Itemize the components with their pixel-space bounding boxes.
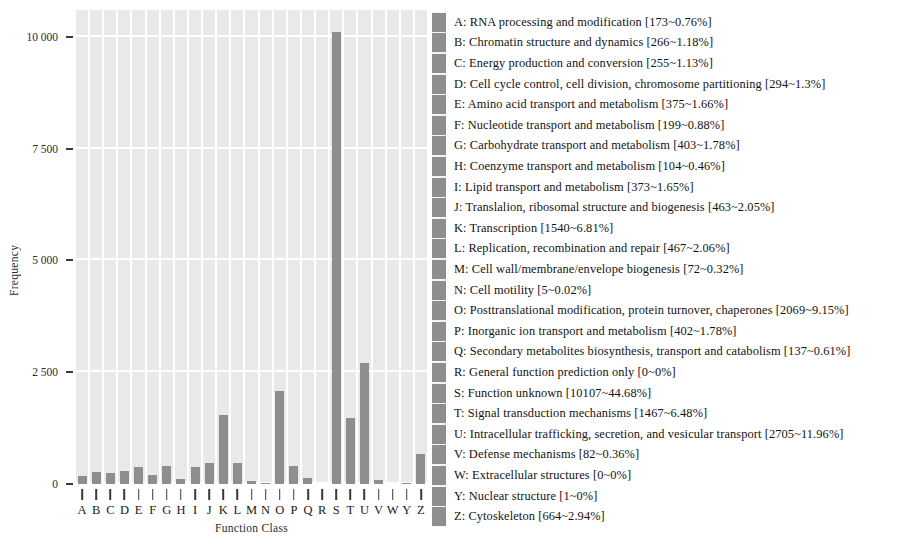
x-axis-tick-label: Q [303, 503, 312, 518]
x-axis-tick-mark [237, 489, 239, 500]
bar [205, 463, 214, 484]
gridline-horizontal [75, 147, 428, 149]
cog-function-classification-figure: Frequency 02 5005 0007 50010 000 ABCDEFG… [0, 0, 912, 544]
bar [176, 479, 185, 484]
x-axis-tick-mark [138, 489, 140, 500]
x-axis-tick-mark [251, 489, 253, 500]
gridline-vertical [399, 10, 401, 484]
legend-item-label: E: Amino acid transport and metabolism [… [454, 97, 728, 112]
gridline-vertical [286, 10, 288, 484]
bar [374, 480, 383, 484]
y-axis-tick-label: 10 000 [0, 31, 58, 43]
legend-item-label: V: Defense mechanisms [82~0.36%] [454, 447, 639, 462]
x-axis-tick-mark [378, 489, 380, 500]
bar [92, 472, 101, 484]
gridline-vertical [314, 10, 316, 484]
x-axis-tick-label: M [246, 503, 257, 518]
x-axis-tick-mark [222, 489, 224, 500]
y-axis-tick-mark [66, 259, 73, 261]
legend-color-swatch [432, 341, 446, 362]
legend-item: G: Carbohydrate transport and metabolism… [432, 136, 740, 157]
bar [247, 481, 256, 484]
gridline-vertical [130, 10, 132, 484]
x-axis-tick-label: J [207, 503, 212, 518]
x-axis-tick-mark [420, 489, 422, 500]
legend-item: S: Function unknown [10107~44.68%] [432, 383, 651, 404]
x-axis-tick-label: A [78, 503, 87, 518]
bar [275, 391, 284, 484]
x-axis-tick-label: T [347, 503, 355, 518]
legend-color-swatch [432, 53, 446, 74]
legend-color-swatch [432, 383, 446, 404]
gridline-vertical [413, 10, 415, 484]
legend-color-swatch [432, 300, 446, 321]
legend-item-label: C: Energy production and conversion [255… [454, 56, 713, 71]
bar [106, 473, 115, 484]
gridline-vertical [159, 10, 161, 484]
legend-item-label: A: RNA processing and modification [173~… [454, 15, 712, 30]
x-axis-tick-mark [265, 489, 267, 500]
legend-item-label: P: Inorganic ion transport and metabolis… [454, 324, 737, 339]
y-axis-tick-label: 5 000 [0, 254, 58, 266]
x-axis-tick-label: N [261, 503, 270, 518]
legend-item-label: K: Transcription [1540~6.81%] [454, 221, 613, 236]
legend-color-swatch [432, 74, 446, 95]
gridline-vertical [173, 10, 175, 484]
legend-item: I: Lipid transport and metabolism [373~1… [432, 177, 694, 198]
y-axis-tick-label: 7 500 [0, 143, 58, 155]
x-axis-tick-labels: ABCDEFGHIJKLMNOPQRSTUVWYZ [75, 503, 428, 519]
legend-item: N: Cell motility [5~0.02%] [432, 280, 591, 301]
gridline-vertical [300, 10, 302, 484]
legend-item-label: Y: Nuclear structure [1~0%] [454, 489, 597, 504]
gridline-vertical [102, 10, 104, 484]
gridline-vertical [215, 10, 217, 484]
bar [416, 454, 425, 484]
legend-item-label: M: Cell wall/membrane/envelope biogenesi… [454, 262, 744, 277]
bar [191, 467, 200, 484]
x-axis-tick-mark [95, 489, 97, 500]
bar [402, 483, 411, 484]
gridline-vertical [74, 10, 76, 484]
plot-area [75, 10, 428, 484]
gridline-horizontal [75, 258, 428, 260]
legend-color-swatch [432, 197, 446, 218]
legend-item: E: Amino acid transport and metabolism [… [432, 94, 728, 115]
x-axis-tick-label: P [290, 503, 297, 518]
bar [303, 478, 312, 484]
legend-color-swatch [432, 424, 446, 445]
y-axis-tick-mark [66, 148, 73, 150]
x-axis-tick-mark [364, 489, 366, 500]
x-axis-tick-label: G [162, 503, 171, 518]
legend-item: H: Coenzyme transport and metabolism [10… [432, 156, 725, 177]
x-axis-tick-mark [321, 489, 323, 500]
legend-color-swatch [432, 218, 446, 239]
legend-color-swatch [432, 280, 446, 301]
legend-item: U: Intracellular trafficking, secretion,… [432, 424, 844, 445]
x-axis-tick-mark [166, 489, 168, 500]
gridline-vertical [187, 10, 189, 484]
legend-item-label: S: Function unknown [10107~44.68%] [454, 386, 651, 401]
x-axis-tick-mark [180, 489, 182, 500]
x-axis-tick-mark [208, 489, 210, 500]
legend-item: Z: Cytoskeleton [664~2.94%] [432, 506, 605, 527]
x-axis-tick-marks [75, 489, 428, 500]
legend-item: J: Translalion, ribosomal structure and … [432, 197, 775, 218]
x-axis-tick-mark [124, 489, 126, 500]
x-axis-tick-mark [110, 489, 112, 500]
legend-color-swatch [432, 321, 446, 342]
x-axis-tick-label: E [135, 503, 143, 518]
y-axis-tick-mark [66, 483, 73, 485]
legend-item: V: Defense mechanisms [82~0.36%] [432, 445, 639, 466]
legend-item-label: N: Cell motility [5~0.02%] [454, 283, 591, 298]
x-axis-tick-label: U [360, 503, 369, 518]
x-axis-tick-label: R [318, 503, 326, 518]
legend-item-label: I: Lipid transport and metabolism [373~1… [454, 180, 694, 195]
bar [360, 363, 369, 484]
legend-color-swatch [432, 12, 446, 33]
bar [346, 418, 355, 484]
gridline-horizontal [75, 35, 428, 37]
legend-color-swatch [432, 238, 446, 259]
bar [148, 475, 157, 484]
legend-item: F: Nucleotide transport and metabolism [… [432, 115, 724, 136]
x-axis-tick-mark [279, 489, 281, 500]
